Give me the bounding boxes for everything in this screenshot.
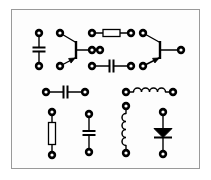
node-q2-lead-center [179, 48, 182, 51]
resistor-top-middle-body [103, 30, 120, 37]
node-q2-collector-center [141, 31, 144, 34]
node-q1-emitter-center [58, 64, 61, 67]
node-c4-bottom [85, 148, 93, 156]
node-q1-collector [56, 29, 64, 37]
node-c3-left [42, 88, 50, 96]
node-q2-emitter [139, 62, 147, 70]
node-c1-bottom [35, 62, 43, 70]
node-d1-bottom [159, 150, 167, 158]
node-c3-right [81, 88, 89, 96]
node-r2-bottom [48, 151, 56, 159]
node-l1-left-center [124, 90, 127, 93]
node-r1-right-center [129, 31, 132, 34]
inductor-vertical-coil [122, 114, 126, 146]
transistor-right-emitter-arrow [153, 58, 160, 63]
node-c3-right-center [83, 90, 86, 93]
node-c1-top-center [37, 31, 40, 34]
node-c4-bottom-center [87, 150, 90, 153]
node-q1-collector-center [58, 31, 61, 34]
diode-triangle [154, 129, 172, 138]
node-l1-left [122, 88, 130, 96]
node-l1-right-center [171, 90, 174, 93]
node-d1-bottom-center [161, 152, 164, 155]
node-q2-emitter-center [141, 64, 144, 67]
resistor-bottom-left-body [49, 123, 56, 145]
transistor-left-emitter-arrow [69, 58, 76, 63]
node-q2-collector [139, 29, 147, 37]
node-l2-bottom [122, 149, 130, 157]
node-c3-left-center [44, 90, 47, 93]
node-c1-top [35, 29, 43, 37]
node-l1-right [169, 88, 177, 96]
node-c2-left-center [90, 64, 93, 67]
node-d1-top [159, 108, 167, 116]
node-c2-left [88, 62, 96, 70]
node-l2-top [122, 102, 130, 110]
node-q1-lead-center [98, 48, 101, 51]
node-c1-bottom-center [37, 64, 40, 67]
node-mid-left-center [90, 48, 93, 51]
node-r1-left-center [90, 31, 93, 34]
node-r2-top [48, 108, 56, 116]
node-c4-top-center [87, 112, 90, 115]
circuit-schematic [0, 0, 211, 180]
node-c4-top [85, 110, 93, 118]
node-q1-lead [96, 46, 104, 54]
node-c2-right-center [129, 64, 132, 67]
node-l2-bottom-center [124, 151, 127, 154]
node-r2-top-center [50, 110, 53, 113]
node-q2-lead [177, 46, 185, 54]
node-d1-top-center [161, 110, 164, 113]
node-r1-right [127, 29, 135, 37]
screenshot-root [0, 0, 211, 180]
node-r1-left [88, 29, 96, 37]
node-q1-emitter [56, 62, 64, 70]
node-c2-right [127, 62, 135, 70]
node-mid-left [88, 46, 96, 54]
node-r2-bottom-center [50, 153, 53, 156]
inductor-horizontal-coil [134, 88, 166, 92]
node-l2-top-center [124, 104, 127, 107]
